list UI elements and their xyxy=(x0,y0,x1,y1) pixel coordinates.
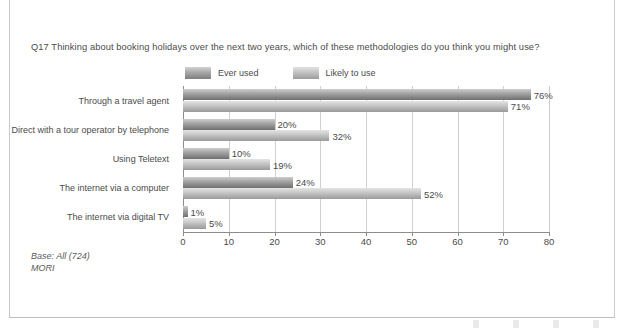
bar-1-3[interactable] xyxy=(183,188,421,199)
plot-area: 76%71%20%32%10%19%24%52%1%5% xyxy=(183,86,549,232)
bar-1-4[interactable] xyxy=(183,218,206,229)
bar-value-label: 10% xyxy=(229,148,251,159)
bar-1-2[interactable] xyxy=(183,159,270,170)
category-label: Through a travel agent xyxy=(78,96,169,106)
chart-legend: Ever usedLikely to use xyxy=(185,67,376,79)
bar-value-label: 32% xyxy=(329,130,351,141)
x-tick-label: 30 xyxy=(315,236,326,247)
legend-label: Ever used xyxy=(218,68,259,78)
bar-value-label: 76% xyxy=(531,89,553,100)
x-tick-label: 50 xyxy=(406,236,417,247)
x-tick-label: 0 xyxy=(180,236,185,247)
bar-value-label: 20% xyxy=(275,119,297,130)
bar-row: 52% xyxy=(183,188,549,199)
legend-swatch-icon xyxy=(293,67,319,79)
category-label: The internet via digital TV xyxy=(67,212,169,222)
bar-row: 1% xyxy=(183,206,549,217)
legend-entry-0[interactable]: Ever used xyxy=(185,67,259,79)
x-tick-label: 70 xyxy=(498,236,509,247)
scan-artifact xyxy=(455,320,620,328)
legend-entry-1[interactable]: Likely to use xyxy=(293,67,376,79)
footnote-source: MORI xyxy=(31,262,90,274)
bar-1-0[interactable] xyxy=(183,101,508,112)
bar-0-0[interactable] xyxy=(183,89,531,100)
bar-value-label: 19% xyxy=(270,159,292,170)
category-label: Using Teletext xyxy=(113,154,169,164)
bar-row: 10% xyxy=(183,148,549,159)
category-label: The internet via a computer xyxy=(59,183,169,193)
bar-value-label: 71% xyxy=(508,101,530,112)
category-label: Direct with a tour operator by telephone xyxy=(11,125,169,135)
x-tick-label: 40 xyxy=(361,236,372,247)
bar-value-label: 5% xyxy=(206,218,223,229)
legend-swatch-icon xyxy=(185,67,211,79)
bar-value-label: 24% xyxy=(293,177,315,188)
x-tick-label: 60 xyxy=(452,236,463,247)
bar-row: 71% xyxy=(183,101,549,112)
x-tick-label: 80 xyxy=(544,236,555,247)
page-title: Q17 Thinking about booking holidays over… xyxy=(31,42,539,52)
bar-row: 24% xyxy=(183,177,549,188)
bar-row: 19% xyxy=(183,159,549,170)
bar-0-2[interactable] xyxy=(183,148,229,159)
bar-1-1[interactable] xyxy=(183,130,329,141)
bar-row: 5% xyxy=(183,218,549,229)
x-axis-tick-labels: 01020304050607080 xyxy=(183,236,549,250)
bar-row: 76% xyxy=(183,89,549,100)
x-tick-label: 10 xyxy=(223,236,234,247)
bar-row: 32% xyxy=(183,130,549,141)
legend-label: Likely to use xyxy=(326,68,376,78)
bar-0-3[interactable] xyxy=(183,177,293,188)
footnote-base: Base: All (724) xyxy=(31,250,90,262)
bar-row: 20% xyxy=(183,119,549,130)
x-tick-label: 20 xyxy=(269,236,280,247)
bar-0-1[interactable] xyxy=(183,119,275,130)
footnote: Base: All (724) MORI xyxy=(31,250,90,274)
bar-value-label: 1% xyxy=(188,206,205,217)
bar-value-label: 52% xyxy=(421,188,443,199)
y-axis-category-labels: Through a travel agentDirect with a tour… xyxy=(0,86,176,232)
